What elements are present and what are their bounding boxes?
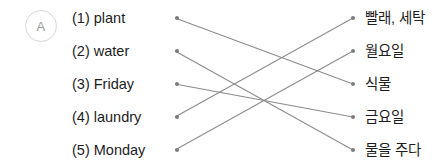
connector-line-monday <box>175 51 353 150</box>
left-item-label: (5) Monday <box>72 140 145 160</box>
matching-exercise: A (1) plant (2) water (3) Friday (4) lau… <box>0 0 444 168</box>
right-item-monday-ko[interactable]: 월요일 <box>353 41 444 61</box>
left-item-label: (3) Friday <box>72 74 134 94</box>
connector-group <box>175 18 353 150</box>
left-connector-dot[interactable] <box>175 148 179 152</box>
connector-line-laundry <box>175 18 353 117</box>
right-column: 빨래, 세탁 월요일 식물 금요일 물을 주다 <box>353 0 444 168</box>
right-connector-dot[interactable] <box>351 82 355 86</box>
left-connector-dot[interactable] <box>175 16 179 20</box>
left-item-monday[interactable]: (5) Monday <box>72 140 180 160</box>
right-item-label: 금요일 <box>365 107 404 127</box>
left-connector-dot[interactable] <box>175 115 179 119</box>
question-badge-letter: A <box>37 20 46 33</box>
left-item-label: (2) water <box>72 41 129 61</box>
left-item-friday[interactable]: (3) Friday <box>72 74 180 94</box>
right-item-friday-ko[interactable]: 금요일 <box>353 107 444 127</box>
right-item-label: 물을 주다 <box>365 140 421 160</box>
left-item-label: (1) plant <box>72 8 125 28</box>
left-connector-dot[interactable] <box>175 49 179 53</box>
right-item-plant-ko[interactable]: 식물 <box>353 74 444 94</box>
right-item-laundry-ko[interactable]: 빨래, 세탁 <box>353 8 444 28</box>
left-connector-dot[interactable] <box>175 82 179 86</box>
right-connector-dot[interactable] <box>351 16 355 20</box>
left-item-laundry[interactable]: (4) laundry <box>72 107 180 127</box>
right-connector-dot[interactable] <box>351 49 355 53</box>
right-item-label: 빨래, 세탁 <box>365 8 425 28</box>
right-item-water-ko[interactable]: 물을 주다 <box>353 140 444 160</box>
right-connector-dot[interactable] <box>351 115 355 119</box>
left-item-plant[interactable]: (1) plant <box>72 8 180 28</box>
connector-line-water <box>175 51 353 150</box>
right-item-label: 식물 <box>365 74 391 94</box>
left-item-water[interactable]: (2) water <box>72 41 180 61</box>
connector-line-plant <box>175 18 353 84</box>
right-item-label: 월요일 <box>365 41 404 61</box>
left-column: (1) plant (2) water (3) Friday (4) laund… <box>72 0 180 168</box>
question-badge: A <box>25 10 57 42</box>
right-connector-dot[interactable] <box>351 148 355 152</box>
left-item-label: (4) laundry <box>72 107 141 127</box>
connector-line-friday <box>175 84 353 117</box>
